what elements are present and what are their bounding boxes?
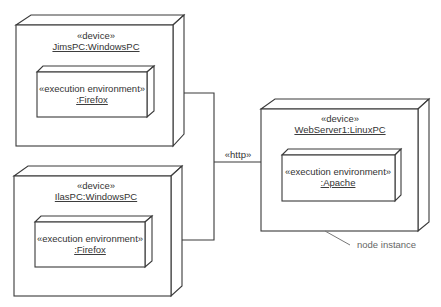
node-instance-annotation: node instance bbox=[325, 231, 416, 250]
node-top-face bbox=[261, 99, 429, 109]
exec-env-name: :Firefox bbox=[76, 94, 108, 105]
node-web-server[interactable]: «device» WebServer1:LinuxPC «execution e… bbox=[261, 99, 429, 231]
node-name: IlasPC:WindowsPC bbox=[55, 191, 137, 202]
node-name: JimsPC:WindowsPC bbox=[52, 41, 139, 52]
node-stereotype: «device» bbox=[321, 113, 359, 124]
node-jims-pc[interactable]: «device» JimsPC:WindowsPC «execution env… bbox=[16, 15, 184, 146]
node-side-face bbox=[173, 15, 184, 146]
exec-env-top-face bbox=[282, 149, 401, 155]
exec-env-stereotype: «execution environment» bbox=[285, 166, 391, 177]
exec-env-side-face bbox=[147, 66, 154, 117]
node-stereotype: «device» bbox=[77, 30, 115, 41]
node-side-face bbox=[418, 99, 429, 231]
node-ilas-pc[interactable]: «device» IlasPC:WindowsPC «execution env… bbox=[14, 166, 182, 296]
deployment-diagram: «http» «device» JimsPC:WindowsPC «execut… bbox=[0, 0, 441, 307]
annotation-text: node instance bbox=[357, 239, 416, 250]
annotation-leader-line bbox=[325, 231, 350, 245]
node-side-face bbox=[171, 166, 182, 296]
execution-environment-firefox[interactable]: «execution environment» :Firefox bbox=[35, 216, 152, 267]
exec-env-top-face bbox=[37, 66, 154, 72]
node-stereotype: «device» bbox=[77, 180, 115, 191]
node-name: WebServer1:LinuxPC bbox=[294, 124, 385, 135]
http-stereotype-label: «http» bbox=[225, 149, 251, 160]
exec-env-side-face bbox=[145, 216, 152, 267]
execution-environment-apache[interactable]: «execution environment» :Apache bbox=[282, 149, 401, 201]
execution-environment-firefox[interactable]: «execution environment» :Firefox bbox=[37, 66, 154, 117]
node-top-face bbox=[14, 166, 182, 176]
exec-env-side-face bbox=[395, 149, 401, 201]
node-top-face bbox=[16, 15, 184, 25]
exec-env-name: :Firefox bbox=[74, 244, 106, 255]
exec-env-stereotype: «execution environment» bbox=[37, 233, 143, 244]
exec-env-stereotype: «execution environment» bbox=[39, 83, 145, 94]
exec-env-name: :Apache bbox=[321, 177, 356, 188]
exec-env-top-face bbox=[35, 216, 152, 222]
